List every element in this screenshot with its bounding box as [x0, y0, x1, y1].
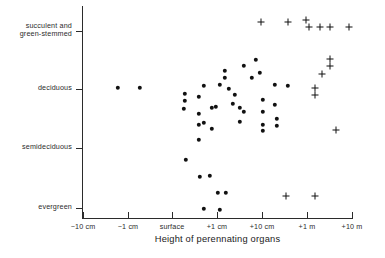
x-axis-tick-label: +10 cm: [250, 222, 275, 231]
data-point-dot: [197, 123, 201, 127]
data-point-plus: [327, 63, 334, 70]
x-axis-title: Height of perennating organs: [82, 234, 353, 244]
data-point-plus: [333, 127, 340, 134]
x-axis-tick-label: +1 m: [299, 222, 316, 231]
data-point-dot: [116, 86, 120, 90]
data-point-dot: [208, 174, 212, 178]
data-point-dot: [238, 120, 242, 124]
data-point-dot: [138, 86, 142, 90]
x-axis-tick: [172, 212, 173, 219]
scatter-plot-figure: succulent and green-stemmeddeciduoussemi…: [0, 0, 385, 258]
x-axis-tick-label: −1 cm: [118, 222, 139, 231]
data-point-plus: [312, 193, 319, 200]
data-point-dot: [275, 124, 279, 128]
data-point-dot: [242, 110, 246, 114]
data-point-dot: [254, 58, 258, 62]
data-point-plus: [312, 85, 319, 92]
data-point-dot: [182, 107, 186, 111]
x-axis-tick: [352, 212, 353, 219]
data-point-dot: [261, 123, 265, 127]
data-point-dot: [233, 93, 237, 97]
data-point-dot: [227, 87, 231, 91]
data-point-plus: [319, 71, 326, 78]
y-axis-tick: [76, 148, 83, 149]
data-point-dot: [218, 208, 222, 212]
y-axis-tick-label-wrap: deciduous: [0, 84, 72, 93]
x-axis-tick-label: +1 cm: [207, 222, 228, 231]
data-point-dot: [197, 112, 201, 116]
data-point-dot: [218, 83, 222, 87]
data-point-dot: [242, 64, 246, 68]
data-point-dot: [261, 129, 265, 133]
data-point-dot: [250, 76, 254, 80]
data-point-dot: [261, 98, 265, 102]
data-point-dot: [216, 191, 220, 195]
y-axis-tick-label: succulent and green-stemmed: [0, 22, 72, 39]
y-axis-tick-label-wrap: evergreen: [0, 203, 72, 212]
y-axis-tick: [76, 89, 83, 90]
data-point-dot: [261, 110, 265, 114]
data-point-dot: [273, 103, 277, 107]
y-axis-tick-label-wrap: succulent and green-stemmed: [0, 22, 72, 39]
data-point-dot: [198, 175, 202, 179]
data-point-plus: [283, 193, 290, 200]
data-point-dot: [223, 76, 227, 80]
data-point-dot: [202, 84, 206, 88]
x-axis-tick: [128, 212, 129, 219]
y-axis-tick-label: semideciduous: [0, 143, 72, 152]
data-point-dot: [184, 158, 188, 162]
data-point-dot: [214, 105, 218, 109]
x-axis-tick: [83, 212, 84, 219]
data-point-dot: [273, 83, 277, 87]
y-axis-tick-label-wrap: semideciduous: [0, 143, 72, 152]
x-axis-tick-label: −10 cm: [71, 222, 96, 231]
data-point-dot: [210, 127, 214, 131]
data-point-dot: [197, 138, 201, 142]
data-point-plus: [312, 92, 319, 99]
data-point-plus: [258, 19, 265, 26]
data-point-dot: [231, 102, 235, 106]
data-point-plus: [346, 24, 353, 31]
data-point-dot: [275, 117, 279, 121]
x-axis-tick: [307, 212, 308, 219]
data-point-dot: [197, 95, 201, 99]
data-point-dot: [202, 207, 206, 211]
x-axis-tick-label: +10 m: [342, 222, 363, 231]
data-point-plus: [327, 56, 334, 63]
y-axis-tick: [76, 208, 83, 209]
data-point-dot: [286, 84, 290, 88]
data-point-plus: [317, 24, 324, 31]
y-axis-tick-label: deciduous: [0, 84, 72, 93]
data-point-plus: [303, 17, 310, 24]
data-point-dot: [258, 71, 262, 75]
data-point-dot: [183, 99, 187, 103]
data-point-plus: [327, 24, 334, 31]
x-axis-tick: [262, 212, 263, 219]
data-point-dot: [224, 191, 228, 195]
y-axis-tick-label: evergreen: [0, 203, 72, 212]
data-point-dot: [183, 92, 187, 96]
y-axis-tick: [76, 31, 83, 32]
y-axis-line: [82, 6, 83, 219]
data-point-dot: [223, 69, 227, 73]
data-point-plus: [285, 19, 292, 26]
x-axis-tick: [217, 212, 218, 219]
x-axis-tick-label: surface: [160, 222, 185, 231]
data-point-dot: [202, 121, 206, 125]
data-point-plus: [306, 24, 313, 31]
